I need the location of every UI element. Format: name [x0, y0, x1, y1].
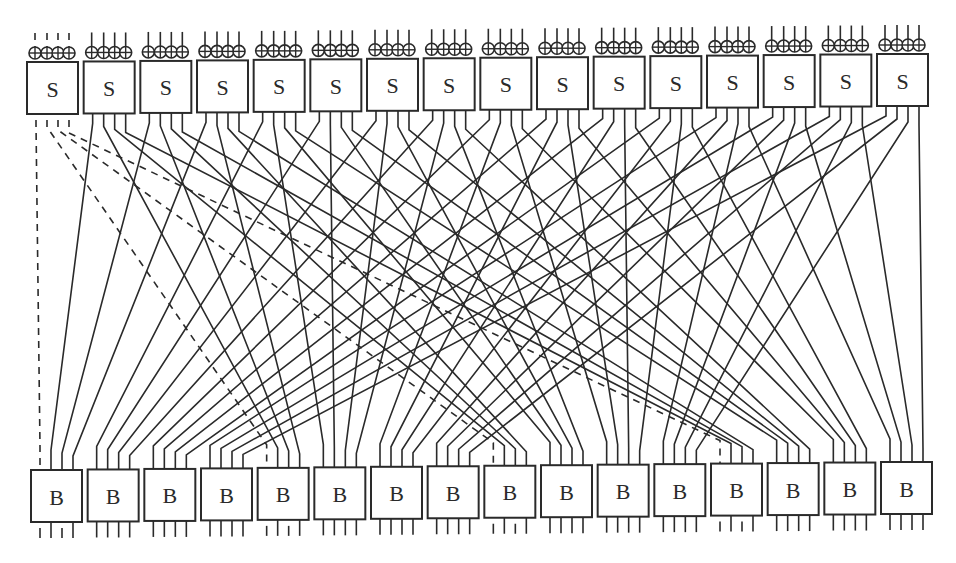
bbox-6: B	[314, 467, 365, 519]
sbox-row: SSSSSSSSSSSSSSSS	[27, 54, 928, 114]
wire-s2-b9	[115, 113, 505, 465]
wire-s11-b11	[625, 109, 629, 465]
xor-icon	[732, 27, 744, 53]
wire-s15-b16	[862, 107, 912, 462]
xor-icon	[222, 31, 234, 57]
sbox-label: S	[443, 73, 455, 98]
bbox-11: B	[598, 465, 649, 517]
xor-icon	[721, 27, 733, 53]
sbox-label: S	[273, 74, 285, 99]
xor-icon	[709, 27, 721, 53]
wire-s12-b11	[640, 108, 682, 465]
xor-icon	[392, 30, 404, 56]
wire-s13-b8	[437, 108, 727, 467]
bbox-10: B	[541, 465, 592, 517]
xor-icon	[211, 31, 223, 57]
bbox-12: B	[654, 464, 705, 516]
wire-s1-b5	[47, 120, 267, 468]
xor-icon	[494, 29, 506, 55]
xor-icon	[652, 27, 664, 53]
xor-icon	[482, 29, 494, 55]
bbox-13: B	[711, 464, 762, 516]
sbox-4: S	[197, 60, 248, 112]
xor-icon	[154, 32, 166, 58]
xor-icon	[879, 25, 891, 51]
xor-icon	[845, 26, 857, 52]
xor-icon	[902, 25, 914, 51]
xor-icon	[346, 30, 358, 56]
xor-icon	[449, 29, 461, 55]
sbox-13: S	[707, 56, 758, 108]
bbox-5: B	[258, 468, 309, 520]
xor-icon	[596, 28, 608, 54]
wire-s14-b12	[674, 107, 794, 464]
xor-icon	[856, 26, 868, 52]
sbox-label: S	[103, 76, 115, 101]
sbox-label: S	[500, 72, 512, 97]
sbox-label: S	[613, 71, 625, 96]
xor-icon	[630, 28, 642, 54]
wire-s11-b3	[175, 109, 602, 469]
xor-icon	[176, 32, 188, 58]
xor-icon	[539, 28, 551, 54]
xor-icon	[335, 30, 347, 56]
xor-icon	[199, 31, 211, 57]
xor-icon	[686, 27, 698, 53]
xor-icon	[822, 26, 834, 52]
wire-s16-b4	[243, 106, 886, 468]
permutation-network-diagram: SSSSSSSSSSSSSSSS BBBBBBBBBBBBBBBB	[0, 0, 956, 563]
xor-icon	[766, 26, 778, 52]
bbox-9: B	[484, 466, 535, 518]
xor-icon	[165, 32, 177, 58]
bbox-label: B	[502, 480, 517, 505]
wire-s12-b15	[692, 108, 866, 462]
xor-icon	[505, 29, 517, 55]
xor-icon	[41, 33, 53, 59]
sbox-label: S	[46, 77, 58, 102]
bbox-label: B	[842, 477, 857, 502]
bbox-label: B	[559, 480, 574, 505]
xor-icon	[268, 31, 280, 57]
xor-icon	[800, 26, 812, 52]
sbox-9: S	[480, 58, 531, 110]
bbox-15: B	[824, 463, 875, 515]
sbox-label: S	[783, 70, 795, 95]
xor-icon	[142, 32, 154, 58]
xor-icon	[516, 29, 528, 55]
sbox-5: S	[254, 60, 305, 112]
wire-s15-b4	[232, 107, 829, 469]
sbox-10: S	[537, 57, 588, 109]
sbox-11: S	[594, 57, 645, 109]
permutation-wires	[36, 106, 923, 470]
xor-icon	[675, 27, 687, 53]
xor-icon	[312, 30, 324, 56]
bbox-label: B	[729, 478, 744, 503]
bbox-1: B	[31, 470, 82, 522]
xor-icon	[789, 26, 801, 52]
xor-icon	[834, 26, 846, 52]
wire-s11-b15	[636, 109, 856, 463]
bbox-label: B	[106, 484, 121, 509]
wire-s3-b5	[160, 113, 288, 468]
xor-icon	[913, 25, 925, 51]
sbox-label: S	[896, 69, 908, 94]
wire-s10-b11	[568, 109, 618, 464]
xor-icon	[426, 29, 438, 55]
bbox-label: B	[616, 479, 631, 504]
sbox-label: S	[160, 75, 172, 100]
sbox-7: S	[367, 59, 418, 111]
sbox-label: S	[330, 74, 342, 99]
bbox-4: B	[201, 468, 252, 520]
wire-s6-b6	[330, 111, 334, 467]
xor-icon	[438, 29, 450, 55]
xor-icon	[52, 33, 64, 59]
bbox-16: B	[881, 462, 932, 514]
bbox-label: B	[446, 481, 461, 506]
bbox-label: B	[49, 485, 64, 510]
xor-icon	[381, 30, 393, 56]
bbox-label: B	[786, 478, 801, 503]
sbox-label: S	[216, 75, 228, 100]
xor-icon	[551, 28, 563, 54]
sbox-label: S	[726, 70, 738, 95]
wire-s10-b7	[391, 109, 557, 467]
